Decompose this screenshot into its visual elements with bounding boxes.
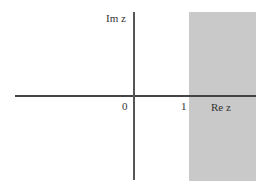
origin-tick-label: 0 xyxy=(122,100,128,112)
shaded-half-plane-region xyxy=(189,12,256,181)
imaginary-axis-label: Im z xyxy=(106,12,126,24)
real-axis xyxy=(15,95,256,97)
real-axis-label: Re z xyxy=(211,101,231,113)
one-tick-label: 1 xyxy=(181,100,187,112)
imaginary-axis xyxy=(133,12,135,180)
